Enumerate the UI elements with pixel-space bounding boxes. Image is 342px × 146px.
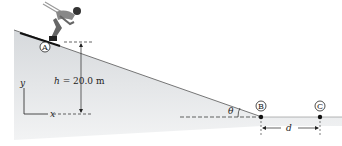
skier-slope-diagram: A h = 20.0 m y x θ B C d [0,0,342,146]
distance-label: d [286,123,292,133]
y-axis-label: y [19,78,26,88]
svg-text:C: C [317,102,323,111]
theta-label: θ [228,106,234,116]
svg-text:A: A [41,43,48,52]
point-c-marker: C [315,101,325,119]
x-axis-label: x [50,109,55,119]
point-a-marker: A [40,42,50,52]
svg-text:B: B [258,102,264,111]
height-label: h = 20.0 m [54,76,105,86]
